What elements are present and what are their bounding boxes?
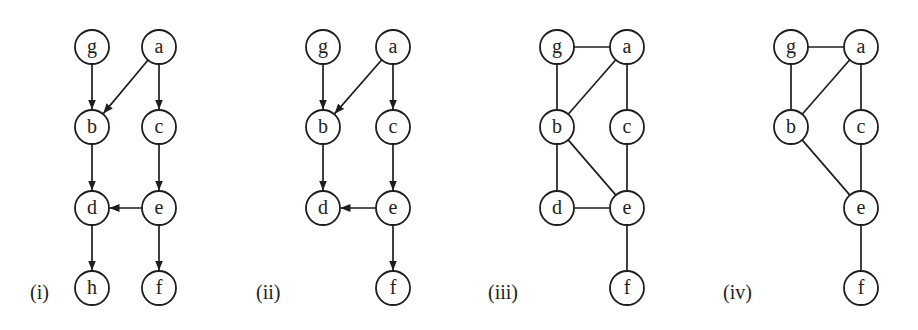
edge-a-b	[802, 60, 850, 114]
panel-i-directed-graph: gabcdehf (i)	[30, 30, 176, 305]
edge-b-e	[802, 140, 850, 195]
node-a: a	[844, 30, 878, 64]
node-c: c	[844, 110, 878, 144]
node-label: f	[624, 276, 631, 298]
node-label: a	[155, 35, 164, 57]
node-c: c	[376, 110, 410, 144]
node-label: a	[623, 35, 632, 57]
node-d: d	[540, 191, 574, 225]
panel-i-label: (i)	[30, 281, 49, 304]
node-f: f	[376, 271, 410, 305]
node-label: c	[389, 115, 398, 137]
graph-figure: gabcdehf (i) gabcdef (ii) gabcdef (iii) …	[0, 0, 918, 330]
node-label: f	[390, 276, 397, 298]
panel-ii-label: (ii)	[256, 281, 280, 304]
node-label: a	[389, 35, 398, 57]
node-g: g	[75, 30, 109, 64]
node-d: d	[75, 191, 109, 225]
node-label: b	[552, 115, 562, 137]
panel-ii-directed-graph: gabcdef (ii)	[256, 30, 410, 305]
node-label: g	[552, 35, 562, 58]
node-d: d	[306, 191, 340, 225]
node-label: c	[155, 115, 164, 137]
node-label: b	[318, 115, 328, 137]
panel-iii-undirected-graph: gabcdef (iii)	[488, 30, 644, 305]
node-label: e	[155, 196, 164, 218]
node-g: g	[540, 30, 574, 64]
node-label: f	[156, 276, 163, 298]
node-e: e	[376, 191, 410, 225]
node-label: b	[786, 115, 796, 137]
panel-i-edges	[92, 60, 159, 270]
node-label: e	[389, 196, 398, 218]
node-b: b	[306, 110, 340, 144]
node-label: d	[552, 196, 562, 218]
node-e: e	[844, 191, 878, 225]
node-g: g	[306, 30, 340, 64]
panel-ii-edges	[323, 60, 393, 271]
panel-iv-edges	[791, 47, 861, 271]
panel-ii-nodes: gabcdef	[306, 30, 410, 305]
node-label: e	[857, 196, 866, 218]
panel-iii-label: (iii)	[488, 281, 518, 304]
node-c: c	[610, 110, 644, 144]
node-label: b	[87, 115, 97, 137]
node-f: f	[610, 271, 644, 305]
node-a: a	[376, 30, 410, 64]
node-f: f	[844, 271, 878, 305]
node-label: g	[318, 35, 328, 58]
node-label: e	[623, 196, 632, 218]
node-e: e	[142, 191, 176, 225]
node-label: d	[87, 196, 97, 218]
node-a: a	[610, 30, 644, 64]
node-a: a	[142, 30, 176, 64]
node-label: g	[786, 35, 796, 58]
node-label: d	[318, 196, 328, 218]
panel-i-nodes: gabcdehf	[75, 30, 176, 305]
node-b: b	[540, 110, 574, 144]
node-label: g	[87, 35, 97, 58]
node-label: c	[857, 115, 866, 137]
node-h: h	[75, 271, 109, 305]
edge-a-b-arrow	[103, 60, 148, 114]
node-f: f	[142, 271, 176, 305]
node-label: f	[858, 276, 865, 298]
panel-iii-edges	[557, 47, 627, 271]
node-b: b	[774, 110, 808, 144]
edge-a-b	[568, 60, 616, 114]
edge-b-e	[568, 140, 616, 195]
panel-iv-label: (iv)	[723, 281, 752, 304]
panel-iv-undirected-graph: gabcef (iv)	[723, 30, 878, 305]
node-label: c	[623, 115, 632, 137]
node-b: b	[75, 110, 109, 144]
node-e: e	[610, 191, 644, 225]
node-label: h	[87, 276, 97, 298]
node-label: a	[857, 35, 866, 57]
node-g: g	[774, 30, 808, 64]
node-c: c	[142, 110, 176, 144]
edge-a-b-arrow	[335, 60, 382, 114]
